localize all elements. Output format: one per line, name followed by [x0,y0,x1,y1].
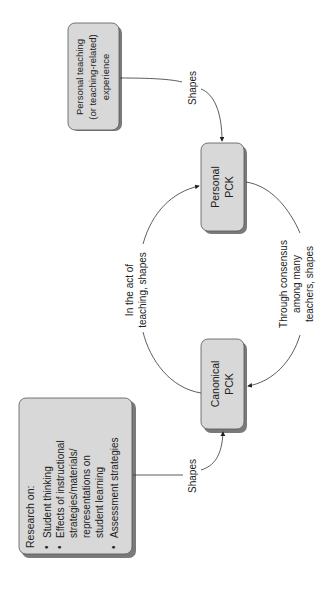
bullet-dot: • [41,545,52,549]
research-bullet-2-cont: representations on [81,455,92,538]
edge-label-line1: Through consensus [278,240,289,328]
experience-line2: (or teaching-related) [87,34,98,120]
canonical-pck-box: Canonical PCK [201,339,247,433]
experience-line3: experience [100,54,111,100]
edge-research-to-canonical: Shapes [133,432,223,493]
edge-experience-to-personal: Shapes [120,71,222,141]
edge-canonical-to-personal: In the act of teaching, shapes [124,186,201,393]
personal-line1: Personal [209,166,221,207]
experience-line1: Personal teaching [74,39,85,115]
pck-diagram: Research on: • • • Student thinking Effe… [0,0,327,594]
canonical-line2: PCK [223,373,235,395]
edge-label-line2: among many [291,255,302,313]
edge-label-line2: teaching, shapes [137,252,148,328]
research-bullet-2: Effects of instructional [55,440,66,538]
personal-line2: PCK [223,176,235,198]
personal-pck-box: Personal PCK [201,143,247,234]
research-bullet-1: Student thinking [42,466,53,538]
research-box: Research on: • • • Student thinking Effe… [19,398,136,558]
research-bullet-2-cont: strategies/materials/ [68,448,79,538]
edge-label-line1: In the act of [124,264,135,316]
bullet-dot: • [54,545,65,549]
research-bullet-3: Assessment strategies [109,437,120,538]
edge-personal-to-canonical: Through consensus among many teachers, s… [246,182,315,386]
research-bullet-2-cont: student learning [94,467,105,538]
edge-label-line3: teachers, shapes [304,246,315,322]
edge-label-shapes: Shapes [187,71,198,105]
canonical-line1: Canonical [209,361,221,408]
research-title: Research on: [24,486,36,548]
bullet-dot: • [108,545,119,549]
experience-box: Personal teaching (or teaching-related) … [68,23,122,131]
edge-label-shapes: Shapes [187,459,198,493]
